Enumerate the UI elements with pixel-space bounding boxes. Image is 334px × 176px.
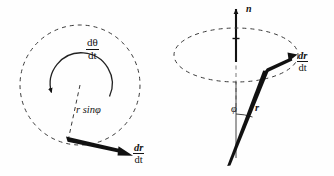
position-vector-label: r (255, 103, 259, 114)
left-panel-group (20, 25, 140, 156)
velocity-left-denominator: dt (135, 154, 143, 165)
axis-label-n: n (246, 4, 252, 14)
velocity-right-numerator: dr (298, 50, 307, 61)
axis-label-text: n (246, 3, 252, 14)
diagram-canvas (0, 0, 334, 176)
radius-label-text: r sinφ (76, 104, 101, 115)
angular-rate-denominator: dt (88, 49, 97, 61)
angular-rate-numerator: dθ (87, 36, 98, 48)
velocity-label-left: dr dt (133, 142, 144, 165)
position-vector-r (227, 70, 268, 166)
phi-angle-label: φ (231, 104, 237, 115)
velocity-right-denominator: dt (299, 62, 307, 73)
angular-rate-label: dθ dt (86, 37, 99, 61)
radius-label: r sinφ (76, 105, 101, 116)
vector-diagram-figure: dθ dt r sinφ dr dt n φ r dr dt (0, 0, 334, 176)
angular-rate-arc-arrow (50, 53, 112, 97)
phi-angle-text: φ (231, 103, 237, 114)
velocity-left-numerator: dr (134, 142, 143, 153)
velocity-vector-arrow-left (66, 137, 133, 156)
right-panel-group (174, 9, 298, 166)
velocity-label-right: dr dt (297, 50, 308, 73)
velocity-vector-arrow-right (263, 52, 298, 74)
position-vector-text: r (255, 102, 259, 113)
